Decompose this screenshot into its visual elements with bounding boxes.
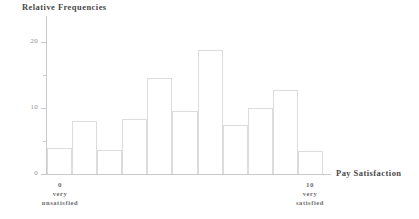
bar [147,78,172,174]
chart-canvas: Relative Frequencies Pay Satisfaction 01… [0,0,419,219]
x-tick-label-left: 0 very unsatisfied [25,181,95,207]
x-axis-line [46,174,331,175]
y-tick-label: 10 [20,103,38,111]
x-tick-left-value: 0 [25,181,95,190]
y-tick-label: 20 [20,37,38,45]
x-tick-right-desc-1: very [275,190,345,199]
bar [172,111,197,174]
x-axis-title: Pay Satisfaction [336,168,402,178]
x-tick-right-desc-2: satisfied [275,199,345,208]
bar [72,121,97,174]
x-tick-right-value: 10 [275,181,345,190]
y-tick-major [41,174,47,175]
x-tick-label-right: 10 very satisfied [275,181,345,207]
y-axis-title: Relative Frequencies [22,2,107,12]
bar [47,148,72,174]
bar [198,50,223,174]
x-tick-left-desc-2: unsatisfied [25,199,95,208]
bar [97,150,122,174]
bar [248,108,273,174]
bars-container [47,16,323,174]
bar [122,119,147,174]
bar [223,125,248,174]
bar [273,90,298,174]
bar [298,151,323,174]
x-tick-left-desc-1: very [25,190,95,199]
y-tick-label: 0 [20,169,38,177]
